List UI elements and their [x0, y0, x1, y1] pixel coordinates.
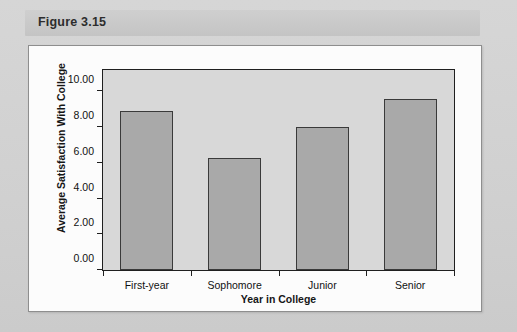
bar-senior: [384, 99, 437, 270]
y-axis-tick: [97, 233, 103, 234]
x-axis-tick-label: Sophomore: [207, 279, 261, 291]
bars-layer: [103, 70, 454, 270]
y-axis-title: Average Satisfaction With College: [55, 53, 67, 243]
y-axis-tick-label: 8.00: [74, 109, 94, 121]
x-axis-tick: [366, 270, 367, 276]
figure-card: Average Satisfaction With College 0.002.…: [28, 45, 482, 312]
y-axis-tick-label: 2.00: [74, 216, 94, 228]
y-axis-tick: [97, 198, 103, 199]
y-axis-tick: [97, 90, 103, 91]
x-axis-title: Year in College: [102, 293, 455, 305]
x-axis-tick: [103, 270, 104, 276]
figure-page: Figure 3.15 Average Satisfaction With Co…: [0, 0, 517, 332]
y-axis-tick: [97, 126, 103, 127]
bar-chart: Average Satisfaction With College 0.002.…: [29, 46, 481, 311]
y-axis-tick: [97, 162, 103, 163]
bar-first-year: [120, 111, 173, 270]
y-axis-tick-label: 0.00: [74, 252, 94, 264]
figure-caption-band: Figure 3.15: [25, 10, 480, 36]
plot-frame: 0.002.004.006.008.0010.00First-yearSopho…: [102, 69, 455, 271]
figure-caption-label: Figure 3.15: [38, 15, 106, 29]
bar-sophomore: [208, 158, 261, 271]
y-axis-tick-label: 6.00: [74, 145, 94, 157]
x-axis-tick: [454, 270, 455, 276]
y-axis-tick-label: 10.00: [68, 73, 94, 85]
x-axis-tick-label: Junior: [308, 279, 337, 291]
x-axis-tick-label: Senior: [395, 279, 425, 291]
x-axis-tick: [279, 270, 280, 276]
y-axis-tick-label: 4.00: [74, 181, 94, 193]
x-axis-tick-label: First-year: [125, 279, 169, 291]
x-axis-tick: [191, 270, 192, 276]
bar-junior: [296, 127, 349, 270]
